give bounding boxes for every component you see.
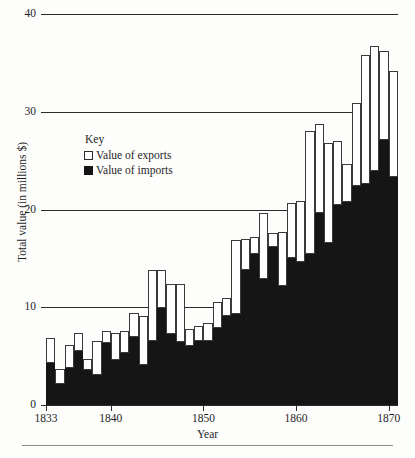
- bar-segment-imports: [370, 171, 379, 405]
- y-axis-tick-label: 0: [6, 399, 36, 411]
- bar-segment-exports: [324, 143, 333, 243]
- bar-segment-exports: [55, 369, 64, 384]
- x-axis-tick-label: 1870: [366, 412, 412, 425]
- bar-1851: [213, 302, 222, 405]
- bar-segment-imports: [55, 384, 64, 406]
- bar-segment-exports: [46, 338, 55, 363]
- bar-segment-exports: [361, 55, 370, 184]
- bar-segment-imports: [250, 254, 259, 405]
- chart-legend: Key Value of exports Value of imports: [84, 132, 173, 178]
- bar-segment-imports: [194, 341, 203, 406]
- bar-segment-exports: [370, 46, 379, 171]
- bar-segment-imports: [46, 363, 55, 405]
- x-axis-title: Year: [0, 428, 415, 440]
- bar-segment-exports: [185, 329, 194, 347]
- x-axis-tick-label: 1850: [180, 412, 226, 425]
- bar-segment-exports: [65, 345, 74, 367]
- bar-1848: [185, 329, 194, 405]
- bar-segment-imports: [129, 337, 138, 405]
- y-axis-title: Total value (in millions $): [16, 82, 28, 322]
- bar-segment-exports: [278, 232, 287, 286]
- bar-segment-exports: [379, 51, 388, 140]
- x-axis-tick-mark: [111, 405, 112, 411]
- bar-1844: [148, 270, 157, 405]
- bar-segment-imports: [83, 370, 92, 405]
- bar-1857: [268, 233, 277, 405]
- bar-segment-exports: [83, 359, 92, 370]
- bar-1835: [65, 345, 74, 405]
- bar-segment-imports: [379, 140, 388, 405]
- bar-1858: [278, 232, 287, 405]
- x-axis-line: [46, 405, 398, 406]
- bar-segment-imports: [305, 254, 314, 405]
- bar-segment-exports: [92, 341, 101, 374]
- plot-area: [46, 14, 398, 405]
- legend-label-exports: Value of exports: [96, 148, 171, 163]
- bar-1839: [102, 331, 111, 405]
- bar-segment-imports: [296, 262, 305, 405]
- gridline: [46, 112, 398, 113]
- bar-segment-exports: [74, 333, 83, 352]
- bar-1833: [46, 338, 55, 405]
- bar-segment-imports: [166, 334, 175, 405]
- bar-segment-exports: [166, 284, 175, 334]
- bar-segment-imports: [139, 365, 148, 405]
- bar-segment-imports: [259, 279, 268, 405]
- bar-segment-imports: [92, 375, 101, 405]
- bar-1864: [333, 141, 342, 405]
- bar-segment-exports: [194, 326, 203, 341]
- bar-segment-imports: [241, 270, 250, 405]
- bar-segment-exports: [222, 298, 231, 316]
- bar-segment-imports: [157, 308, 166, 405]
- bar-segment-exports: [342, 164, 351, 202]
- bar-1845: [157, 270, 166, 405]
- bar-segment-imports: [111, 360, 120, 405]
- legend-label-imports: Value of imports: [96, 163, 173, 178]
- legend-item-exports: Value of exports: [84, 148, 173, 163]
- chart-figure: 010203040 18331840185018601870 Year Tota…: [0, 0, 415, 458]
- bar-segment-imports: [102, 343, 111, 405]
- bar-segment-imports: [120, 353, 129, 405]
- bar-segment-exports: [157, 270, 166, 308]
- legend-title: Key: [84, 132, 173, 147]
- bar-1859: [287, 203, 296, 405]
- bar-segment-imports: [176, 342, 185, 405]
- bar-segment-exports: [333, 141, 342, 205]
- bar-1834: [55, 369, 64, 405]
- bar-segment-imports: [389, 177, 398, 405]
- bar-1854: [241, 239, 250, 405]
- bar-segment-exports: [148, 270, 157, 340]
- y-axis-tick-label: 40: [6, 8, 36, 20]
- bar-segment-exports: [259, 213, 268, 278]
- bar-1856: [259, 213, 268, 405]
- bar-segment-imports: [287, 258, 296, 405]
- bar-1843: [139, 316, 148, 405]
- bar-segment-exports: [129, 313, 138, 336]
- x-axis-tick-label: 1840: [88, 412, 134, 425]
- bar-segment-exports: [389, 71, 398, 178]
- bar-segment-exports: [176, 284, 185, 343]
- x-axis-tick-mark: [203, 405, 204, 411]
- bar-segment-exports: [111, 333, 120, 360]
- bar-1855: [250, 237, 259, 405]
- bar-1868: [370, 46, 379, 405]
- legend-swatch-exports-icon: [84, 151, 93, 160]
- bar-1841: [120, 331, 129, 405]
- bar-segment-exports: [102, 331, 111, 344]
- bar-1867: [361, 55, 370, 405]
- bar-1869: [379, 51, 388, 405]
- bar-segment-exports: [120, 331, 129, 353]
- page-rule: [22, 445, 393, 446]
- bar-segment-imports: [203, 341, 212, 406]
- bar-segment-exports: [352, 103, 361, 186]
- bar-1861: [305, 131, 314, 405]
- bar-segment-imports: [65, 368, 74, 405]
- bar-segment-exports: [287, 203, 296, 259]
- bar-segment-exports: [250, 237, 259, 255]
- bar-1840: [111, 333, 120, 405]
- gridline: [46, 14, 398, 15]
- bar-1866: [352, 103, 361, 405]
- bar-1842: [129, 313, 138, 405]
- legend-item-imports: Value of imports: [84, 163, 173, 178]
- bar-1860: [296, 201, 305, 405]
